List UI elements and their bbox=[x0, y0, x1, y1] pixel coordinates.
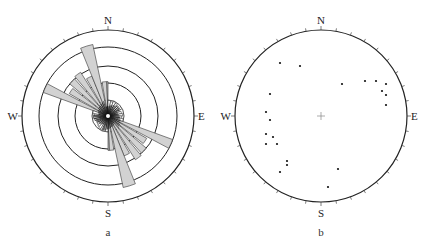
tick-mark bbox=[291, 197, 292, 200]
tick-mark bbox=[277, 190, 279, 193]
tick-mark bbox=[64, 190, 66, 193]
data-point bbox=[385, 83, 387, 85]
south-label-b: S bbox=[318, 207, 324, 219]
tick-mark bbox=[64, 39, 66, 42]
tick-mark bbox=[51, 48, 53, 50]
south-label-a: S bbox=[105, 207, 111, 219]
tick-mark bbox=[387, 171, 389, 173]
tick-mark bbox=[182, 72, 185, 74]
west-label-a: W bbox=[8, 110, 19, 122]
tick-mark bbox=[163, 48, 165, 50]
data-point bbox=[341, 83, 343, 85]
east-label-b: E bbox=[411, 110, 418, 122]
tick-mark bbox=[31, 159, 34, 161]
data-point bbox=[327, 186, 329, 188]
tick-mark bbox=[350, 197, 351, 200]
tick-mark bbox=[376, 182, 378, 184]
tick-mark bbox=[163, 182, 165, 184]
tick-mark bbox=[40, 171, 42, 173]
data-point bbox=[272, 136, 274, 138]
caption-b: b bbox=[318, 226, 324, 238]
data-point bbox=[265, 143, 267, 145]
data-point bbox=[279, 62, 281, 64]
data-point bbox=[269, 93, 271, 95]
east-label-a: E bbox=[198, 110, 205, 122]
data-point bbox=[265, 111, 267, 113]
tick-mark bbox=[264, 182, 266, 184]
data-point bbox=[364, 80, 366, 82]
data-point bbox=[265, 133, 267, 135]
tick-mark bbox=[40, 59, 42, 61]
tick-mark bbox=[189, 86, 192, 87]
tick-mark bbox=[253, 59, 255, 61]
tick-mark bbox=[291, 32, 292, 35]
center-dot bbox=[106, 114, 110, 118]
tick-mark bbox=[24, 86, 27, 87]
data-point bbox=[385, 104, 387, 106]
figure: N S E W a N S E W b bbox=[0, 0, 424, 248]
tick-mark bbox=[31, 72, 34, 74]
north-label-a: N bbox=[104, 14, 112, 26]
west-label-b: W bbox=[221, 110, 232, 122]
tick-mark bbox=[402, 86, 405, 87]
tick-mark bbox=[402, 145, 405, 146]
tick-mark bbox=[244, 159, 247, 161]
tick-mark bbox=[51, 182, 53, 184]
tick-mark bbox=[151, 190, 153, 193]
tick-mark bbox=[264, 48, 266, 50]
tick-mark bbox=[78, 32, 79, 35]
tick-mark bbox=[364, 39, 366, 42]
rose-diagram bbox=[18, 26, 198, 206]
tick-mark bbox=[395, 72, 398, 74]
data-point bbox=[279, 171, 281, 173]
data-point bbox=[381, 90, 383, 92]
data-point bbox=[286, 164, 288, 166]
stereonet bbox=[231, 26, 411, 206]
tick-mark bbox=[24, 145, 27, 146]
tick-mark bbox=[376, 48, 378, 50]
tick-mark bbox=[277, 39, 279, 42]
tick-mark bbox=[387, 59, 389, 61]
tick-mark bbox=[182, 159, 185, 161]
tick-mark bbox=[364, 190, 366, 193]
tick-mark bbox=[395, 159, 398, 161]
data-point bbox=[286, 160, 288, 162]
data-point bbox=[375, 80, 377, 82]
tick-mark bbox=[174, 171, 176, 173]
data-point bbox=[299, 65, 301, 67]
data-point bbox=[337, 168, 339, 170]
data-point bbox=[269, 119, 271, 121]
tick-mark bbox=[237, 86, 240, 87]
tick-mark bbox=[174, 59, 176, 61]
data-point bbox=[276, 143, 278, 145]
tick-mark bbox=[151, 39, 153, 42]
caption-a: a bbox=[106, 226, 111, 238]
tick-mark bbox=[350, 32, 351, 35]
north-label-b: N bbox=[317, 14, 325, 26]
tick-mark bbox=[189, 145, 192, 146]
tick-mark bbox=[253, 171, 255, 173]
tick-mark bbox=[244, 72, 247, 74]
tick-mark bbox=[237, 145, 240, 146]
tick-mark bbox=[137, 32, 138, 35]
tick-mark bbox=[78, 197, 79, 200]
data-point bbox=[385, 94, 387, 96]
tick-mark bbox=[137, 197, 138, 200]
